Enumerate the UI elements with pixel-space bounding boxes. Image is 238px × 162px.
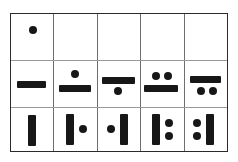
horizontal-bar-icon (17, 81, 46, 88)
dot-icon (197, 87, 205, 95)
numeral-row-1 (11, 14, 227, 60)
numeral-row-2 (11, 60, 227, 107)
numeral-cell-r3c2 (54, 108, 97, 151)
numeral-cell-r1c2 (54, 14, 97, 60)
dot-icon (165, 119, 173, 127)
vertical-bar-icon (152, 114, 160, 145)
numeral-cell-r2c3 (98, 61, 141, 106)
dot-icon (165, 132, 173, 140)
vertical-bar-icon (28, 115, 36, 146)
dot-icon (71, 70, 79, 78)
horizontal-bar-icon (190, 76, 221, 83)
horizontal-bar-icon (59, 85, 91, 92)
numeral-cell-r1c1 (11, 14, 54, 60)
dot-icon (164, 72, 172, 80)
dot-icon (193, 132, 201, 140)
numeral-row-3 (11, 108, 227, 151)
dot-icon (79, 125, 87, 133)
dot-icon (114, 87, 122, 95)
vertical-bar-icon (206, 114, 214, 145)
dot-icon (29, 26, 37, 34)
dot-icon (152, 72, 160, 80)
numeral-cell-r3c4 (141, 108, 184, 151)
horizontal-bar-icon (102, 77, 135, 84)
dot-icon (193, 119, 201, 127)
dot-icon (209, 87, 217, 95)
dot-icon (107, 125, 115, 133)
numeral-cell-r3c3 (98, 108, 141, 151)
numeral-cell-r3c1 (11, 108, 54, 151)
numeral-cell-r2c4 (141, 61, 184, 106)
numeral-cell-r2c5 (185, 61, 227, 106)
vertical-bar-icon (120, 114, 128, 145)
numeral-cell-r2c1 (11, 61, 54, 106)
numeral-cell-r1c3 (98, 14, 141, 60)
horizontal-bar-icon (144, 85, 178, 92)
numeral-grid (10, 13, 228, 152)
numeral-cell-r2c2 (54, 61, 97, 106)
numeral-cell-r3c5 (185, 108, 227, 151)
numeral-cell-r1c5 (185, 14, 227, 60)
vertical-bar-icon (66, 114, 74, 145)
numeral-cell-r1c4 (141, 14, 184, 60)
